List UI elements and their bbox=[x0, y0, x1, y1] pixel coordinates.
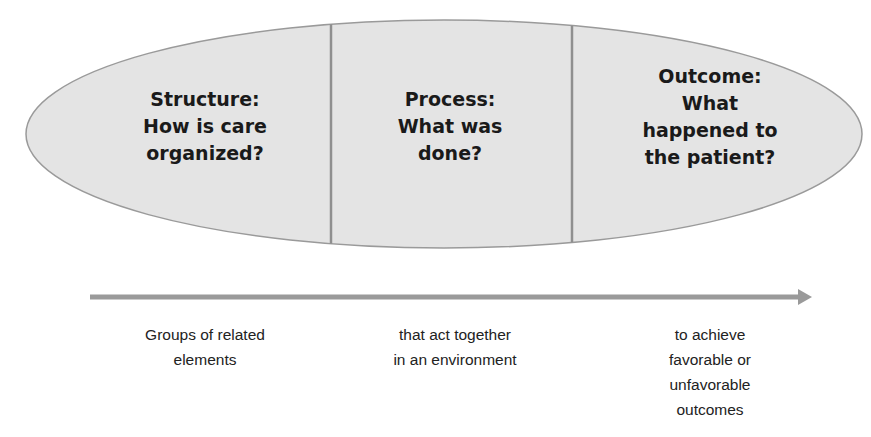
arrow-head-icon bbox=[798, 289, 812, 305]
section-outcome-line: the patient? bbox=[625, 144, 795, 171]
caption-process: that act together in an environment bbox=[375, 322, 535, 372]
caption-outcome: to achieve favorable or unfavorable outc… bbox=[640, 322, 780, 422]
caption-line: outcomes bbox=[640, 397, 780, 422]
caption-line: elements bbox=[130, 347, 280, 372]
section-process-line: done? bbox=[365, 140, 535, 167]
section-structure-title: Structure: bbox=[120, 86, 290, 113]
caption-line: favorable or bbox=[640, 347, 780, 372]
section-process-title: Process: bbox=[365, 86, 535, 113]
caption-structure: Groups of related elements bbox=[130, 322, 280, 372]
caption-line: in an environment bbox=[375, 347, 535, 372]
section-outcome-title: Outcome: bbox=[625, 63, 795, 90]
section-outcome-line: happened to bbox=[625, 117, 795, 144]
section-structure-line: organized? bbox=[120, 140, 290, 167]
section-process-line: What was bbox=[365, 113, 535, 140]
section-process: Process: What was done? bbox=[365, 86, 535, 167]
section-structure-line: How is care bbox=[120, 113, 290, 140]
section-outcome-line: What bbox=[625, 90, 795, 117]
caption-line: unfavorable bbox=[640, 372, 780, 397]
caption-line: to achieve bbox=[640, 322, 780, 347]
section-structure: Structure: How is care organized? bbox=[120, 86, 290, 167]
section-outcome: Outcome: What happened to the patient? bbox=[625, 63, 795, 171]
structure-process-outcome-diagram: Structure: How is care organized? Proces… bbox=[0, 0, 871, 437]
caption-line: that act together bbox=[375, 322, 535, 347]
caption-line: Groups of related bbox=[130, 322, 280, 347]
